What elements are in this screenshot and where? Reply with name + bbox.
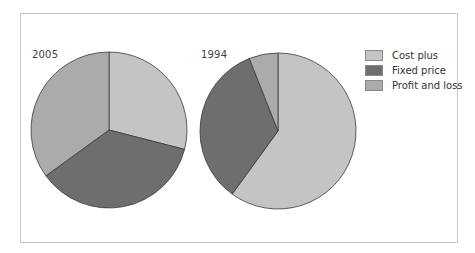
legend-swatch-profit-and-loss bbox=[365, 80, 383, 91]
pie-label-1994: 1994 bbox=[201, 49, 227, 60]
pie-label-2005: 2005 bbox=[32, 49, 58, 60]
legend-label: Cost plus bbox=[392, 50, 438, 61]
legend-swatch-fixed-price bbox=[365, 65, 383, 76]
legend-item-profit-and-loss: Profit and loss bbox=[365, 78, 463, 93]
pie-1994 bbox=[200, 53, 356, 209]
legend-label: Profit and loss bbox=[392, 80, 463, 91]
legend-label: Fixed price bbox=[392, 65, 446, 76]
pie-charts bbox=[0, 0, 475, 253]
pie-2005 bbox=[31, 52, 187, 208]
legend-item-cost-plus: Cost plus bbox=[365, 48, 463, 63]
legend: Cost plus Fixed price Profit and loss bbox=[365, 48, 463, 93]
legend-swatch-cost-plus bbox=[365, 50, 383, 61]
legend-item-fixed-price: Fixed price bbox=[365, 63, 463, 78]
